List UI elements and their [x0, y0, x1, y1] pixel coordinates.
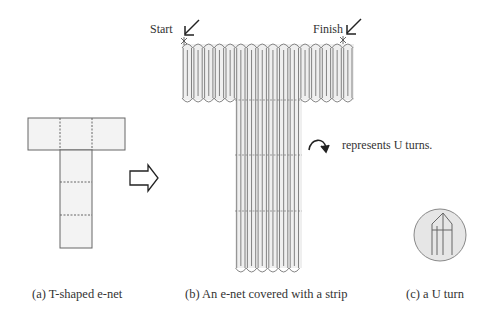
finish-marker-icon [340, 36, 346, 44]
strip-covered-enet [182, 44, 354, 272]
start-arrow-icon [185, 20, 199, 35]
caption-b: (b) An e-net covered with a strip [185, 287, 347, 302]
u-turn-legend-text: represents U turns. [342, 138, 432, 153]
u-turn-arrow-icon [309, 140, 329, 152]
start-label: Start [150, 22, 173, 37]
t-shaped-enet [28, 118, 125, 248]
caption-c: (c) a U turn [406, 287, 464, 302]
u-turn-detail [414, 209, 466, 261]
diagram-canvas [0, 0, 496, 318]
finish-arrow-icon [347, 19, 361, 34]
caption-a: (a) T-shaped e-net [32, 287, 122, 302]
finish-label: Finish [313, 22, 343, 37]
right-arrow-icon [130, 165, 158, 191]
